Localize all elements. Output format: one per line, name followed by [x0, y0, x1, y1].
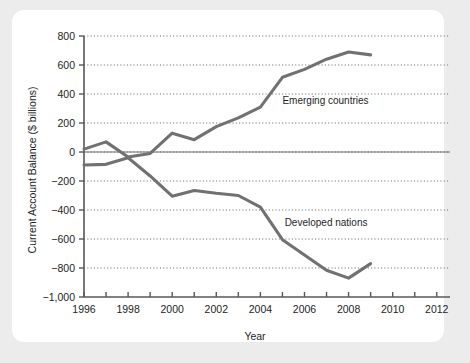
series-annotations: Emerging countriesDeveloped nations — [282, 95, 368, 228]
x-tick-label: 2008 — [337, 303, 361, 315]
y-tick-label: −1,000 — [43, 291, 76, 303]
x-tick-label: 1996 — [72, 303, 96, 315]
y-tick-label: −400 — [51, 204, 75, 216]
x-axis-title: Year — [244, 330, 266, 342]
x-tick-label: 2010 — [381, 303, 405, 315]
annotation-emerging-countries: Emerging countries — [282, 95, 368, 106]
annotation-developed-nations: Developed nations — [285, 217, 368, 228]
y-tick-label: 400 — [57, 88, 75, 100]
x-tick-label: 2002 — [205, 303, 229, 315]
x-tick-label: 2006 — [293, 303, 317, 315]
x-tick-label: 2000 — [161, 303, 185, 315]
y-axis-title: Current Account Balance ($ billions) — [26, 87, 38, 254]
y-tick-label: −800 — [51, 262, 75, 274]
y-tick-label: 800 — [57, 30, 75, 42]
chart-plot-area: 8006004002000−200−400−600−800−1,000 1996… — [0, 0, 470, 363]
chart-screenshot: 8006004002000−200−400−600−800−1,000 1996… — [0, 0, 470, 363]
y-tick-label: −200 — [51, 175, 75, 187]
y-tick-label: −600 — [51, 233, 75, 245]
y-tick-label: 200 — [57, 117, 75, 129]
y-tick-label: 0 — [69, 146, 75, 158]
y-tick-labels: 8006004002000−200−400−600−800−1,000 — [43, 30, 76, 303]
series-group — [84, 52, 371, 278]
x-tick-label: 1998 — [116, 303, 140, 315]
y-tick-label: 600 — [57, 59, 75, 71]
line-chart: 8006004002000−200−400−600−800−1,000 1996… — [0, 0, 470, 363]
x-tick-label: 2004 — [249, 303, 273, 315]
x-tick-label: 2012 — [425, 303, 449, 315]
x-tick-labels: 199619982000200220042006200820102012 — [72, 303, 448, 315]
